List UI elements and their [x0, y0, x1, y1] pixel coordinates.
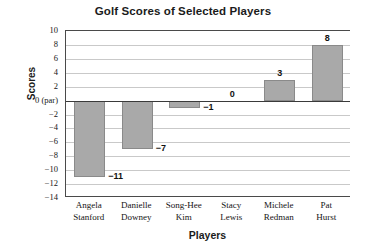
chart-screenshot: Golf Scores of Selected Players Scores 1…	[0, 0, 366, 252]
category-label-line: Lewis	[208, 212, 256, 224]
category-label-line: Danielle	[113, 200, 161, 212]
category-label-line: Pat	[303, 200, 351, 212]
bar-value-label: 8	[313, 33, 341, 43]
bar-value-label: −7	[156, 143, 166, 153]
bar-value-label: −11	[108, 171, 123, 181]
category-label: AngelaStanford	[65, 200, 113, 223]
category-label-line: Hurst	[303, 212, 351, 224]
bar	[312, 45, 343, 101]
y-tick-label: 10	[50, 25, 59, 35]
y-tick-label: −2	[49, 109, 58, 119]
gridline	[66, 87, 350, 88]
gridline	[66, 59, 350, 60]
category-label-line: Angela	[65, 200, 113, 212]
bar	[122, 101, 153, 150]
y-axis-tick-labels: 1086420 (par)−2−4−6−8−10−12−14	[0, 30, 62, 197]
category-label: MicheleRedman	[255, 200, 303, 223]
bar-value-label: 0	[218, 89, 246, 99]
bar	[264, 80, 295, 101]
y-tick-label: −10	[45, 164, 58, 174]
y-tick-label: 4	[54, 67, 58, 77]
gridline	[66, 142, 350, 143]
category-label-line: Redman	[255, 212, 303, 224]
gridline	[66, 184, 350, 185]
chart-title: Golf Scores of Selected Players	[0, 5, 366, 17]
bar	[74, 101, 105, 178]
y-tick-label: 8	[54, 39, 58, 49]
x-axis-title: Players	[65, 229, 350, 241]
category-label: StacyLewis	[208, 200, 256, 223]
gridline	[66, 128, 350, 129]
category-label-line: Stanford	[65, 212, 113, 224]
category-label-line: Downey	[113, 212, 161, 224]
y-tick-label: 6	[54, 53, 58, 63]
y-tick-label: −14	[45, 192, 58, 202]
gridline	[66, 45, 350, 46]
category-label: PatHurst	[303, 200, 351, 223]
y-tick-label: −4	[49, 122, 58, 132]
y-tick-label: −8	[49, 150, 58, 160]
gridline	[66, 73, 350, 74]
x-axis-category-labels: AngelaStanfordDanielleDowneySong-HeeKimS…	[65, 200, 350, 228]
y-tick-label: −12	[45, 178, 58, 188]
y-tick-label: 0 (par)	[35, 95, 58, 105]
category-label-line: Stacy	[208, 200, 256, 212]
bar-value-label: −1	[203, 102, 213, 112]
y-tick-label: 2	[54, 81, 58, 91]
category-label: Song-HeeKim	[160, 200, 208, 223]
gridline	[66, 156, 350, 157]
y-tick-label: −6	[49, 136, 58, 146]
category-label-line: Michele	[255, 200, 303, 212]
gridline	[66, 115, 350, 116]
plot-area: −11−7−1038	[65, 30, 350, 197]
category-label: DanielleDowney	[113, 200, 161, 223]
category-label-line: Kim	[160, 212, 208, 224]
bar-value-label: 3	[266, 68, 294, 78]
category-label-line: Song-Hee	[160, 200, 208, 212]
